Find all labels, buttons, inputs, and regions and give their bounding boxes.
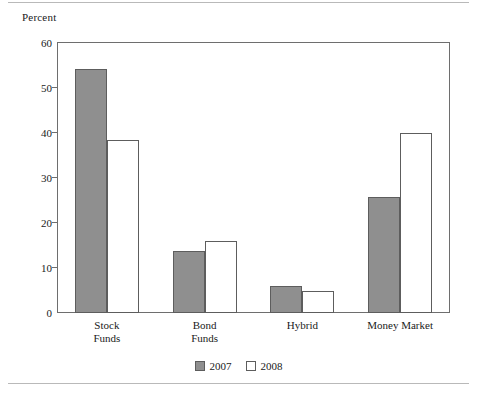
legend-label: 2007 — [210, 360, 232, 372]
x-tick-label: Money Market — [367, 319, 433, 332]
y-tick-label: 10 — [26, 262, 52, 274]
x-tick-label: Stock Funds — [93, 319, 120, 345]
bar-2007-0 — [75, 69, 107, 313]
x-tick-label: Hybrid — [287, 319, 318, 332]
legend-item-2008: 2008 — [246, 360, 283, 372]
bar-2008-0 — [107, 140, 139, 313]
y-tick-label: 60 — [26, 37, 52, 49]
y-axis-tick-labels: 0102030405060 — [22, 42, 52, 313]
y-tick-mark — [52, 132, 57, 133]
y-tick-mark — [52, 87, 57, 88]
y-tick-mark — [52, 267, 57, 268]
y-tick-mark — [52, 177, 57, 178]
bar-2008-1 — [205, 241, 237, 313]
chart-legend: 20072008 — [0, 360, 477, 372]
y-tick-label: 30 — [26, 172, 52, 184]
bar-2007-2 — [270, 286, 302, 313]
legend-label: 2008 — [261, 360, 283, 372]
plot-area — [58, 43, 449, 313]
bar-2008-2 — [302, 291, 334, 314]
top-divider-rule — [8, 2, 469, 3]
legend-item-2007: 2007 — [195, 360, 232, 372]
legend-swatch-icon — [246, 361, 256, 371]
y-tick-label: 0 — [26, 307, 52, 319]
bottom-divider-rule — [8, 383, 469, 384]
y-tick-mark — [52, 222, 57, 223]
bar-2007-3 — [368, 197, 400, 313]
y-tick-label: 40 — [26, 127, 52, 139]
y-axis-title: Percent — [22, 11, 56, 23]
chart-figure: Percent 0102030405060 Stock FundsBond Fu… — [0, 0, 477, 394]
y-tick-label: 20 — [26, 217, 52, 229]
legend-swatch-icon — [195, 361, 205, 371]
y-tick-label: 50 — [26, 82, 52, 94]
x-tick-label: Bond Funds — [191, 319, 218, 345]
bar-2007-1 — [173, 251, 205, 313]
bar-2008-3 — [400, 133, 432, 313]
